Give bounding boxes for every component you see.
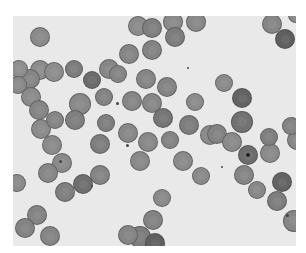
central-pallor (169, 18, 178, 27)
red-blood-cell (222, 132, 242, 152)
platelet (187, 67, 189, 69)
red-blood-cell (38, 163, 58, 183)
central-pallor (213, 130, 222, 139)
central-pallor (265, 133, 273, 141)
red-blood-cell (122, 91, 142, 111)
red-blood-cell (118, 225, 138, 245)
red-blood-cell (153, 189, 171, 207)
central-pallor (61, 188, 70, 197)
red-blood-cell (46, 111, 64, 129)
inclusion-body (246, 153, 250, 157)
red-blood-cell (130, 151, 150, 171)
red-blood-cell (260, 143, 280, 163)
central-pallor (159, 114, 168, 123)
central-pallor (71, 116, 80, 125)
central-pallor (148, 99, 157, 108)
red-blood-cell (157, 77, 177, 97)
red-blood-cell (215, 74, 233, 92)
red-blood-cell (238, 145, 258, 165)
micrograph-frame (13, 16, 296, 246)
red-blood-cell (248, 181, 266, 199)
red-blood-cell (267, 191, 287, 211)
central-pallor (240, 171, 249, 180)
central-pallor (192, 18, 201, 27)
central-pallor (136, 157, 145, 166)
central-pallor (185, 121, 194, 130)
central-pallor (142, 75, 151, 84)
central-pallor (238, 94, 247, 103)
red-blood-cell (42, 135, 62, 155)
central-pallor (51, 116, 59, 124)
central-pallor (48, 141, 57, 150)
red-blood-cell (282, 117, 296, 135)
central-pallor (268, 20, 277, 29)
red-blood-cell (142, 40, 162, 60)
red-blood-cell (40, 226, 60, 246)
central-pallor (37, 125, 46, 134)
central-pallor (148, 46, 157, 55)
red-blood-cell (272, 172, 292, 192)
central-pallor (88, 76, 96, 84)
central-pallor (278, 178, 287, 187)
platelet (59, 160, 62, 163)
red-blood-cell (118, 123, 138, 143)
central-pallor (149, 216, 158, 225)
red-blood-cell (186, 93, 204, 111)
central-pallor (144, 138, 153, 147)
red-blood-cell (90, 165, 110, 185)
red-blood-cell (55, 182, 75, 202)
central-pallor (281, 35, 290, 44)
central-pallor (33, 211, 42, 220)
red-blood-cell (136, 69, 156, 89)
central-pallor (100, 93, 108, 101)
red-blood-cell (260, 128, 278, 146)
red-blood-cell (232, 88, 252, 108)
platelet (286, 214, 289, 217)
central-pallor (179, 157, 188, 166)
central-pallor (50, 68, 59, 77)
red-blood-cell (13, 174, 26, 192)
central-pallor (158, 194, 166, 202)
platelet (91, 185, 93, 187)
central-pallor (166, 136, 174, 144)
red-blood-cell (145, 233, 165, 246)
central-pallor (293, 16, 297, 19)
red-blood-cell (283, 210, 296, 232)
central-pallor (128, 97, 137, 106)
platelet (126, 144, 129, 147)
central-pallor (191, 98, 199, 106)
central-pallor (220, 79, 228, 87)
central-pallor (273, 197, 282, 206)
central-pallor (79, 180, 88, 189)
central-pallor (15, 65, 23, 73)
red-blood-cell (73, 174, 93, 194)
red-blood-cell (161, 131, 179, 149)
central-pallor (13, 179, 21, 187)
red-blood-cell (142, 18, 162, 38)
central-pallor (36, 33, 45, 42)
platelet (221, 166, 223, 168)
red-blood-cell (119, 44, 139, 64)
central-pallor (124, 129, 133, 138)
central-pallor (102, 119, 110, 127)
central-pallor (197, 172, 205, 180)
red-blood-cell (288, 16, 296, 23)
central-pallor (124, 231, 133, 240)
central-pallor (237, 117, 247, 127)
red-blood-cell (275, 29, 295, 49)
central-pallor (21, 224, 30, 233)
central-pallor (163, 83, 172, 92)
red-blood-cell (109, 65, 127, 83)
red-blood-cell (231, 111, 253, 133)
red-blood-cell (44, 62, 64, 82)
red-blood-cell (165, 27, 185, 47)
central-pallor (70, 65, 78, 73)
central-pallor (253, 186, 261, 194)
central-pallor (26, 75, 35, 84)
red-blood-cell (30, 27, 50, 47)
central-pallor (96, 140, 105, 149)
central-pallor (44, 169, 53, 178)
red-blood-cell (90, 134, 110, 154)
central-pallor (289, 216, 296, 226)
red-blood-cell (186, 16, 206, 32)
